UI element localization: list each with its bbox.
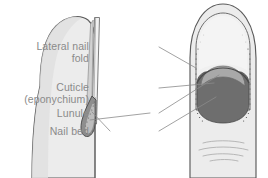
- leader-line-cuticle-lateral: [90, 113, 150, 120]
- nail-anatomy-figure: Lateral nail fold Cuticle (eponychium) L…: [0, 0, 268, 178]
- dorsal-view-illustration: [190, 4, 256, 178]
- label-lunule: Lunule: [57, 108, 89, 120]
- label-nail-bed: Nail bed: [50, 126, 89, 138]
- label-cuticle-line2: (eponychium): [24, 94, 89, 106]
- label-lateral-nail-fold-line1: Lateral nail: [36, 40, 89, 52]
- label-cuticle-line1: Cuticle: [56, 81, 89, 93]
- label-lateral-nail-fold: Lateral nail fold: [36, 41, 89, 64]
- label-lateral-nail-fold-line2: fold: [36, 53, 89, 65]
- label-nail-bed-line1: Nail bed: [50, 125, 89, 137]
- label-cuticle: Cuticle (eponychium): [24, 82, 89, 105]
- label-lunule-line1: Lunule: [57, 107, 89, 119]
